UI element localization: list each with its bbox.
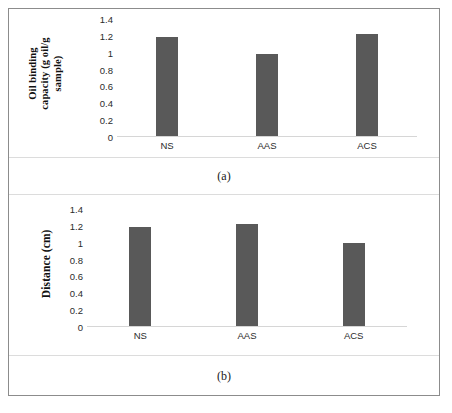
x-tick-label: NS bbox=[160, 140, 173, 151]
y-tick-label: 0.4 bbox=[70, 288, 83, 299]
y-axis-title-a: Oil binding capacity (g oil/g sample) bbox=[27, 14, 64, 134]
chart-body-b bbox=[87, 209, 407, 327]
y-tick-label: 0.6 bbox=[100, 81, 113, 92]
bar bbox=[343, 243, 365, 326]
caption-band-b: (b) bbox=[9, 355, 439, 395]
y-axis-title-b-line1: Distance (cm) bbox=[40, 209, 54, 319]
y-tick-label: 1 bbox=[78, 237, 83, 248]
y-tick-label: 0.6 bbox=[70, 271, 83, 282]
plot-area-a: Oil binding capacity (g oil/g sample) 1.… bbox=[9, 9, 439, 157]
bar bbox=[156, 37, 178, 136]
y-tick-label: 1.2 bbox=[70, 220, 83, 231]
y-tick-label: 1.4 bbox=[70, 204, 83, 215]
x-tick-label: ACS bbox=[357, 140, 377, 151]
y-axis-title-a-line1: Oil binding bbox=[27, 14, 39, 134]
caption-band-a: (a) bbox=[9, 157, 439, 195]
x-tick-label: ACS bbox=[344, 330, 364, 341]
x-axis-categories-a: NSAASACS bbox=[117, 140, 417, 156]
y-tick-label: 1.4 bbox=[100, 14, 113, 25]
y-tick-label: 0.8 bbox=[100, 64, 113, 75]
y-axis-title-a-line3: sample) bbox=[52, 14, 64, 134]
y-axis-title-a-line2: capacity (g oil/g bbox=[40, 14, 52, 134]
y-axis-title-b: Distance (cm) bbox=[40, 209, 54, 319]
y-tick-label: 1.2 bbox=[100, 30, 113, 41]
x-axis-categories-b: NSAASACS bbox=[87, 330, 407, 346]
y-tick-label: 1 bbox=[108, 47, 113, 58]
x-tick-label: AAS bbox=[237, 330, 256, 341]
y-tick-label: 0.8 bbox=[70, 254, 83, 265]
y-tick-label: 0 bbox=[78, 322, 83, 333]
plot-area-b: Distance (cm) 1.41.210.80.60.40.20 NSAAS… bbox=[9, 195, 439, 355]
caption-b: (b) bbox=[9, 368, 439, 383]
chart-body-a bbox=[117, 19, 417, 137]
y-tick-label: 0.2 bbox=[100, 115, 113, 126]
x-tick-label: NS bbox=[134, 330, 147, 341]
caption-a: (a) bbox=[9, 169, 439, 184]
y-tick-label: 0.2 bbox=[70, 305, 83, 316]
y-axis-ticks-b: 1.41.210.80.60.40.20 bbox=[55, 209, 83, 326]
chart-panel-a: Oil binding capacity (g oil/g sample) 1.… bbox=[9, 9, 439, 195]
y-tick-label: 0.4 bbox=[100, 98, 113, 109]
figure-frame: Oil binding capacity (g oil/g sample) 1.… bbox=[8, 8, 440, 396]
bar bbox=[129, 227, 151, 326]
bar bbox=[356, 34, 378, 136]
y-axis-ticks-a: 1.41.210.80.60.40.20 bbox=[85, 19, 113, 136]
bar bbox=[256, 54, 278, 136]
chart-panel-b: Distance (cm) 1.41.210.80.60.40.20 NSAAS… bbox=[9, 195, 439, 395]
y-tick-label: 0 bbox=[108, 132, 113, 143]
x-tick-label: AAS bbox=[257, 140, 276, 151]
bar bbox=[236, 224, 258, 326]
